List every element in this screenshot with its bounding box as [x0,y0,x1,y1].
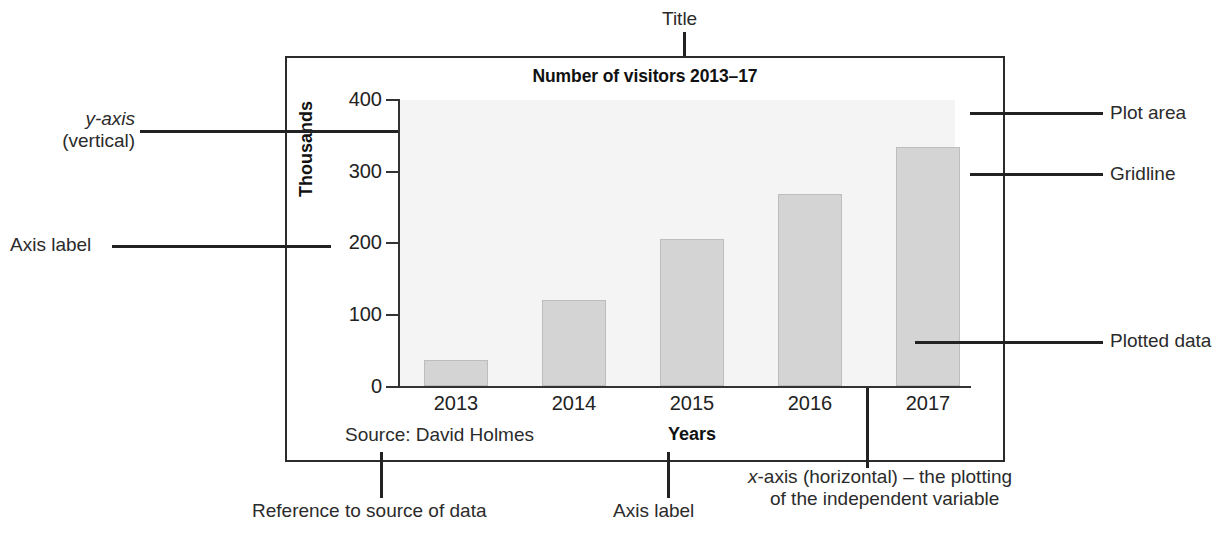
leader-line-reference-source [380,452,383,498]
bar-2013 [424,360,488,386]
chart-title: Number of visitors 2013–17 [285,66,1005,87]
leader-line-plotted-data [915,341,1103,344]
diagram-canvas: Title Number of visitors 2013–17 400 300… [0,0,1229,536]
annotation-axis-label-bottom: Axis label [613,500,694,522]
annotation-x-axis-line1: x-axis (horizontal) – the plotting [748,466,1012,488]
source-note: Source: David Holmes [345,424,534,446]
annotation-gridline: Gridline [1110,163,1175,185]
annotation-reference-source: Reference to source of data [252,500,486,522]
y-tick-300 [386,171,399,173]
annotation-x-axis-line2: of the independent variable [770,488,999,510]
bar-2015 [660,239,724,386]
y-tick-label-100: 100 [334,303,382,326]
leader-line-x-axis [866,388,869,468]
x-axis-line [398,386,971,388]
y-tick-100 [386,314,399,316]
leader-line-plot-area [970,112,1103,115]
leader-line-y-axis [140,130,398,133]
annotation-y-axis-italic: y-axis [85,108,135,129]
y-tick-200 [386,242,399,244]
leader-line-axis-label-left [112,245,331,248]
leader-line-gridline [970,173,1103,176]
y-tick-400 [386,99,399,101]
annotation-x-axis-italic: x [748,466,758,487]
x-tick-label-2014: 2014 [532,392,616,415]
annotation-title-label: Title [662,8,697,30]
y-tick-label-300: 300 [334,160,382,183]
x-tick-label-2017: 2017 [886,392,970,415]
annotation-y-axis-line2: (vertical) [33,130,135,152]
bar-2014 [542,300,606,386]
annotation-x-axis-rest: -axis (horizontal) – the plotting [758,466,1013,487]
y-tick-label-400: 400 [334,88,382,111]
annotation-axis-label-left: Axis label [10,234,91,256]
bar-2017 [896,147,960,386]
y-tick-label-0: 0 [334,375,382,398]
y-axis-title: Thousands [296,101,317,197]
y-tick-0 [386,386,399,388]
y-tick-label-200: 200 [334,231,382,254]
leader-line-axis-label-bottom [667,452,670,498]
annotation-plot-area: Plot area [1110,102,1186,124]
bar-2016 [778,194,842,386]
x-tick-label-2013: 2013 [414,392,498,415]
x-tick-label-2016: 2016 [768,392,852,415]
annotation-y-axis-line1: y-axis [43,108,135,130]
annotation-plotted-data: Plotted data [1110,330,1211,352]
x-tick-label-2015: 2015 [650,392,734,415]
x-axis-title: Years [650,424,734,445]
